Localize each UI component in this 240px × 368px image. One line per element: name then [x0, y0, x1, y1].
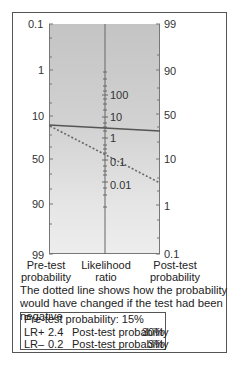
right-axis-label: 50	[164, 110, 176, 121]
right-axis-label: 1	[164, 201, 170, 212]
middle-axis-label: 1	[110, 133, 116, 144]
pretest-axis-title: Pre-test probability	[18, 259, 74, 283]
right-axis-label: 90	[164, 66, 176, 77]
middle-axis-label: 0.1	[110, 157, 125, 168]
middle-axis-label: 10	[110, 112, 122, 123]
left-axis-label: 0.1	[28, 19, 43, 30]
left-axis-label: 1	[38, 65, 44, 76]
left-axis-label: 50	[32, 154, 44, 165]
right-axis-label: 10	[164, 154, 176, 165]
middle-axis-label: 0.01	[110, 180, 131, 191]
posttest-axis-title: Post-test probability	[145, 259, 205, 283]
likelihood-axis-title: Likelihood ratio	[78, 259, 134, 283]
results-box: Pre-test probability: 15% LR+ 2.4 Post-t…	[20, 312, 166, 350]
left-axis-label: 90	[32, 199, 44, 210]
left-axis-label: 10	[32, 111, 44, 122]
left-axis-ticks	[49, 24, 53, 254]
middle-axis-label: 100	[110, 90, 128, 101]
right-axis-ticks	[156, 24, 160, 254]
right-axis-label: 99	[164, 19, 176, 30]
pretest-probability-text: Pre-test probability: 15%	[24, 313, 144, 326]
